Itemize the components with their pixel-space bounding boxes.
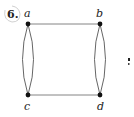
- vertex-d: [98, 93, 103, 98]
- edge-a-c-1: [23, 24, 29, 95]
- vertex-b: [98, 22, 103, 27]
- partial-glyph-lower: [128, 63, 130, 65]
- vertex-label-d: d: [97, 100, 104, 113]
- edge-b-d-1: [95, 24, 101, 95]
- vertex-label-a: a: [24, 7, 31, 20]
- edge-a-c-2: [28, 24, 34, 95]
- problem-number: 6.: [7, 8, 18, 21]
- vertex-label-b: b: [96, 7, 103, 20]
- edge-b-d-2: [100, 24, 106, 95]
- vertex-a: [26, 22, 31, 27]
- vertex-c: [26, 93, 31, 98]
- vertex-label-c: c: [24, 100, 30, 113]
- partial-glyph: [128, 58, 130, 61]
- graph-figure: 6. a b c d: [0, 0, 134, 117]
